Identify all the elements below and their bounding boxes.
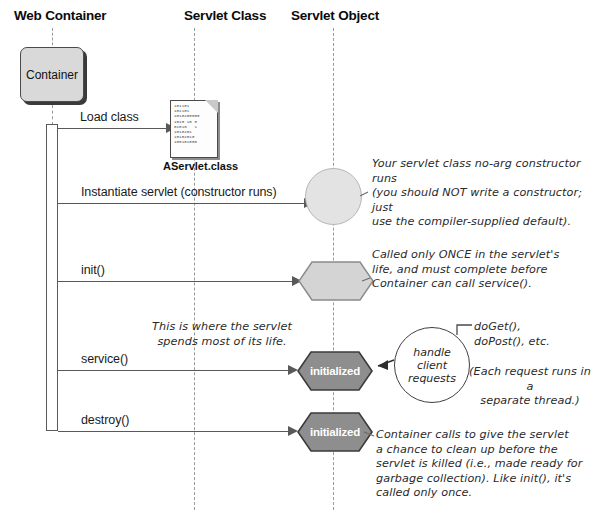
note-do-methods: doGet(), doPost(), etc. — [474, 320, 594, 349]
servlet-object-hexagon-service: initialized — [294, 348, 376, 394]
lifeline-web-container-mid — [52, 105, 53, 125]
message-label-destroy: destroy() — [81, 413, 129, 427]
connector-bubble-to-hexagon — [378, 360, 394, 366]
container-box: Container — [20, 47, 84, 102]
note-service-life: This is where the servlet spends most of… — [136, 320, 308, 349]
note-constructor: Your servlet class no-arg constructor ru… — [372, 157, 598, 230]
servlet-object-hexagon-destroy: initialized — [294, 409, 376, 455]
message-line-init — [58, 281, 294, 282]
servlet-object-hexagon-init — [296, 258, 376, 304]
container-box-label: Container — [21, 68, 83, 82]
handle-client-requests-label: handle client requests — [395, 346, 469, 385]
servlet-object-hexagon-destroy-label: initialized — [294, 426, 376, 438]
message-line-destroy — [58, 431, 290, 432]
column-header-servlet-class: Servlet Class — [184, 8, 266, 23]
class-file-label: AServlet.class — [163, 160, 238, 172]
activation-bar-web-container — [46, 124, 58, 431]
connector-bubble-arrowhead — [378, 360, 388, 370]
servlet-object-hexagon-service-label: initialized — [294, 365, 376, 377]
note-thread: (Each request runs in a separate thread.… — [464, 365, 596, 409]
message-label-init: init() — [81, 263, 105, 277]
note-destroy: Container calls to give the servlet a ch… — [376, 428, 598, 501]
servlet-object-circle — [305, 168, 362, 225]
column-header-servlet-object: Servlet Object — [291, 8, 379, 23]
class-file-bits: 101101 101101 1010100000 1010 10 0 01010… — [174, 104, 214, 146]
diagram-canvas: Web Container Servlet Class Servlet Obje… — [0, 0, 598, 518]
message-label-load-class: Load class — [80, 110, 139, 124]
handle-client-requests-bubble: handle client requests — [394, 327, 470, 403]
class-file-icon: 101101 101101 1010100000 1010 10 0 01010… — [170, 100, 218, 158]
message-label-instantiate: Instantiate servlet (constructor runs) — [81, 185, 277, 199]
message-line-load-class — [58, 128, 168, 129]
column-header-web-container: Web Container — [14, 8, 106, 23]
message-line-instantiate — [58, 203, 306, 204]
note-init: Called only ONCE in the servlet's life, … — [372, 248, 594, 292]
connector-do-methods — [457, 325, 472, 335]
message-label-service: service() — [81, 352, 128, 366]
message-line-service — [58, 370, 290, 371]
